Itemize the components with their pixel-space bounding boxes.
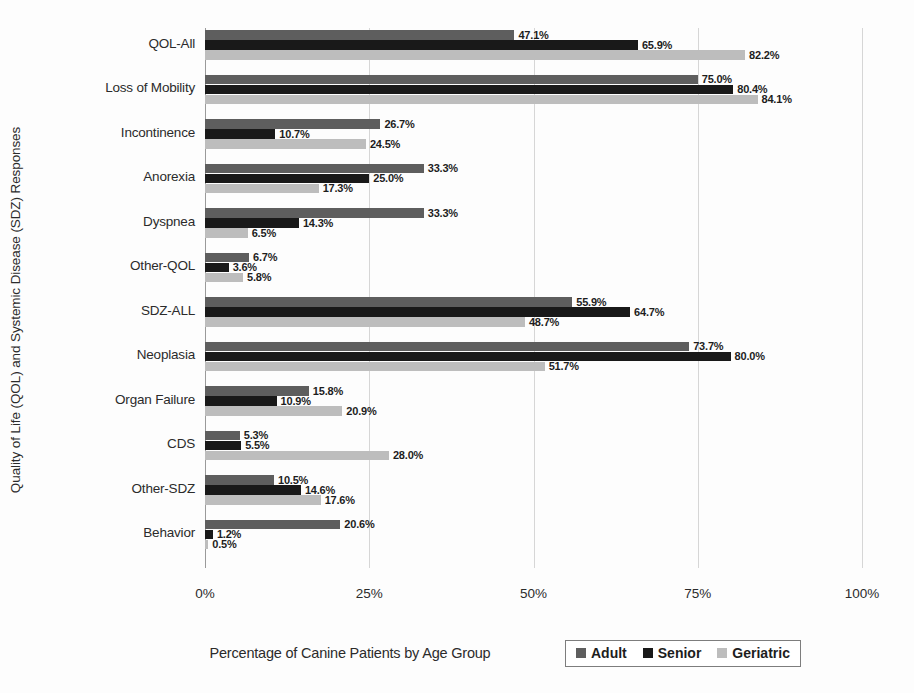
bar-value-label: 84.1% [758,93,792,105]
bar-value-label: 33.3% [424,207,458,219]
bar-rect [205,85,733,95]
bar-rect [205,485,301,495]
bar-value-label: 26.7% [380,118,414,130]
bar-value-label: 10.7% [275,128,309,140]
bar-value-label: 17.6% [321,494,355,506]
category-label-behavior: Behavior [10,525,195,540]
bar-rect [205,475,274,485]
bar-value-label: 14.3% [299,217,333,229]
category-label-neoplasia: Neoplasia [10,347,195,362]
category-label-incontinence: Incontinence [10,125,195,140]
bar-value-label: 28.0% [389,449,423,461]
bar-adult[interactable]: 6.7% [205,253,862,263]
bar-geriatric[interactable]: 84.1% [205,95,862,105]
bar-group: 33.3%25.0%17.3% [205,164,914,197]
bar-geriatric[interactable]: 17.6% [205,495,862,505]
category-label-sdz-all: SDZ-ALL [10,303,195,318]
legend-item-adult[interactable]: Adult [576,645,627,661]
bar-adult[interactable]: 47.1% [205,30,862,40]
chart-legend: Adult Senior Geriatric [565,640,801,667]
bar-senior[interactable]: 14.6% [205,485,862,495]
bar-rect [205,184,319,194]
legend-label-senior: Senior [658,645,702,661]
category-label-cds: CDS [10,436,195,451]
category-label-other-qol: Other-QOL [10,258,195,273]
bar-rect [205,139,366,149]
bar-adult[interactable]: 20.6% [205,520,862,530]
bar-group: 20.6%1.2%0.5% [205,520,914,553]
bar-value-label: 33.3% [424,162,458,174]
bar-geriatric[interactable]: 48.7% [205,317,862,327]
x-tick-label: 50% [520,586,547,601]
bar-group: 55.9%64.7%48.7% [205,297,914,330]
bar-group: 15.8%10.9%20.9% [205,386,914,419]
bar-value-label: 6.5% [248,227,276,239]
bar-rect [205,362,545,372]
bar-senior[interactable]: 5.5% [205,441,862,451]
bar-value-label: 20.9% [342,405,376,417]
bar-adult[interactable]: 55.9% [205,297,862,307]
legend-item-senior[interactable]: Senior [643,645,702,661]
bar-rect [205,75,698,85]
bar-senior[interactable]: 10.7% [205,129,862,139]
bar-value-label: 10.9% [277,395,311,407]
bar-adult[interactable]: 33.3% [205,164,862,174]
bar-rect [205,40,638,50]
bar-value-label: 51.7% [545,360,579,372]
x-tick-label: 25% [356,586,383,601]
bar-group: 26.7%10.7%24.5% [205,119,914,152]
x-axis-title: Percentage of Canine Patients by Age Gro… [160,645,540,661]
bar-geriatric[interactable]: 5.8% [205,273,862,283]
bar-adult[interactable]: 5.3% [205,431,862,441]
bar-senior[interactable]: 14.3% [205,218,862,228]
bar-value-label: 48.7% [525,316,559,328]
bar-value-label: 75.0% [698,73,732,85]
bar-geriatric[interactable]: 28.0% [205,451,862,461]
bar-geriatric[interactable]: 17.3% [205,184,862,194]
bar-value-label: 55.9% [572,296,606,308]
bar-value-label: 73.7% [689,340,723,352]
legend-label-adult: Adult [591,645,627,661]
category-label-organ-failure: Organ Failure [10,392,195,407]
bar-senior[interactable]: 3.6% [205,263,862,273]
x-tick-label: 100% [845,586,880,601]
bar-chart-figure: Quality of Life (QOL) and Systemic Disea… [0,0,914,693]
category-label-qol-all: QOL-All [10,36,195,51]
bar-rect [205,317,525,327]
bar-value-label: 25.0% [369,172,403,184]
bar-geriatric[interactable]: 51.7% [205,362,862,372]
bar-senior[interactable]: 25.0% [205,174,862,184]
bar-rect [205,228,248,238]
bar-value-label: 24.5% [366,138,400,150]
bar-group: 73.7%80.0%51.7% [205,342,914,375]
bar-rect [205,50,745,60]
bar-group: 75.0%80.4%84.1% [205,75,914,108]
bar-geriatric[interactable]: 0.5% [205,540,862,550]
bar-senior[interactable]: 1.2% [205,530,862,540]
bar-senior[interactable]: 10.9% [205,396,862,406]
bar-rect [205,95,758,105]
legend-swatch-adult-icon [576,648,586,658]
legend-swatch-geriatric-icon [717,648,727,658]
x-axis-ticks: 0%25%50%75%100% [0,586,914,608]
bar-group: 5.3%5.5%28.0% [205,431,914,464]
bar-group: 47.1%65.9%82.2% [205,30,914,63]
bar-senior[interactable]: 80.0% [205,352,862,362]
bar-geriatric[interactable]: 6.5% [205,228,862,238]
bar-rect [205,129,275,139]
bar-rect [205,263,229,273]
bar-rect [205,297,572,307]
legend-item-geriatric[interactable]: Geriatric [717,645,790,661]
bar-value-label: 80.0% [731,350,765,362]
bar-rect [205,342,689,352]
bar-geriatric[interactable]: 82.2% [205,50,862,60]
legend-swatch-senior-icon [643,648,653,658]
x-tick-label: 0% [195,586,215,601]
bar-rect [205,431,240,441]
bar-geriatric[interactable]: 20.9% [205,406,862,416]
category-label-anorexia: Anorexia [10,169,195,184]
bar-value-label: 20.6% [340,518,374,530]
bar-value-label: 17.3% [319,182,353,194]
bar-rect [205,307,630,317]
bar-geriatric[interactable]: 24.5% [205,139,862,149]
